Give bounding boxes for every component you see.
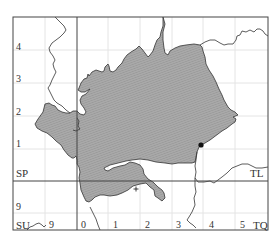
easting-label: 5 — [240, 220, 245, 230]
grid-square-label-tl: TL — [250, 168, 263, 179]
easting-label: 2 — [145, 220, 150, 230]
easting-label: 0 — [81, 220, 86, 230]
easting-label: 9 — [49, 220, 54, 230]
grid-square-label-sp: SP — [16, 168, 28, 179]
record-dot-marker — [198, 142, 203, 147]
grid-square-label-su: SU — [16, 220, 30, 231]
cross-marker — [134, 187, 139, 192]
northing-label: 4 — [16, 42, 21, 52]
northing-label: 3 — [16, 74, 21, 84]
easting-label: 3 — [176, 220, 181, 230]
northing-label: 9 — [16, 202, 21, 212]
easting-label: 1 — [113, 220, 118, 230]
distribution-map — [0, 0, 276, 240]
grid-square-label-tq: TQ — [253, 220, 268, 231]
northing-label: 2 — [16, 107, 21, 117]
northing-label: 1 — [16, 139, 21, 149]
easting-label: 4 — [209, 220, 214, 230]
